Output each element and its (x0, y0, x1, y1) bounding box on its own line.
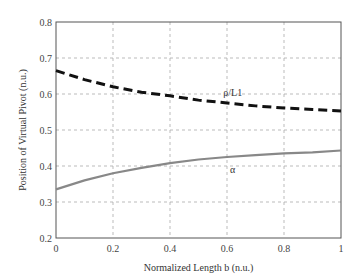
x-tick-label: 0.4 (164, 243, 177, 254)
series-line (56, 71, 341, 111)
series-line (56, 151, 341, 190)
x-tick-label: 0.2 (107, 243, 120, 254)
y-tick-label: 0.4 (40, 161, 53, 172)
y-tick-label: 0.3 (40, 197, 53, 208)
x-tick-label: 0.8 (278, 243, 291, 254)
y-tick-label: 0.2 (40, 233, 53, 244)
y-tick-label: 0.6 (40, 89, 53, 100)
series-annotation: ρ/L1 (223, 87, 242, 98)
x-tick-label: 1 (339, 243, 344, 254)
x-axis-label: Normalized Length b (n.u.) (144, 262, 254, 274)
x-tick-label: 0.6 (221, 243, 234, 254)
y-tick-label: 0.8 (40, 17, 53, 28)
y-tick-label: 0.5 (40, 125, 53, 136)
series-annotation: α (230, 164, 236, 175)
y-axis-label: Position of Virtual Pivot (n.u.) (17, 69, 29, 190)
line-chart: 00.20.40.60.810.20.30.40.50.60.70.8ρ/L1α… (0, 0, 359, 280)
y-tick-label: 0.7 (40, 53, 53, 64)
x-tick-label: 0 (54, 243, 59, 254)
